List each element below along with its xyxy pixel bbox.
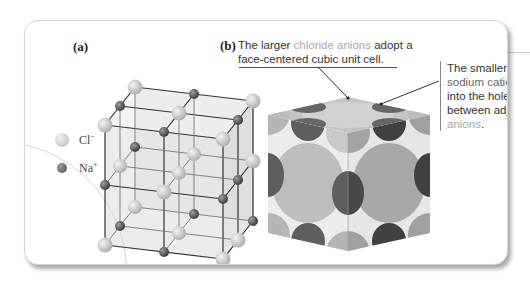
figure-panel: (a) Cl− Na+ [24,20,508,265]
leader-lines [25,21,507,264]
